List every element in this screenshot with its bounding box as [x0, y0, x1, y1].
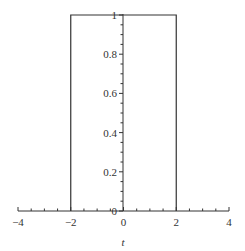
x-tick-label: 4 [226, 216, 232, 228]
y-tick-label: 0.8 [103, 48, 117, 60]
y-tick-label: 0.6 [103, 87, 117, 99]
x-tick-label: 0 [121, 216, 127, 228]
x-tick-label: 2 [174, 216, 180, 228]
y-axis [119, 14, 123, 211]
y-tick-label: 0 [112, 205, 118, 217]
x-tick-label: −2 [65, 216, 77, 228]
x-tick-labels: −4−2024 [12, 216, 232, 228]
y-tick-label: 1 [112, 9, 118, 21]
y-tick-label: 0.4 [103, 127, 117, 139]
y-tick-labels: 00.20.40.60.81 [103, 9, 117, 217]
y-tick-label: 0.2 [103, 166, 117, 178]
chart: −4−2024 00.20.40.60.81 t [0, 0, 245, 251]
x-tick-label: −4 [12, 216, 24, 228]
x-axis-label: t [121, 236, 125, 248]
